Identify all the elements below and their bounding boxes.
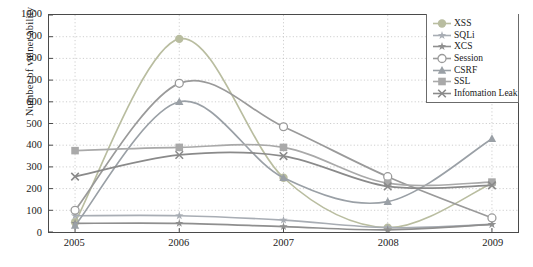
data-point-marker: [71, 206, 79, 214]
x-tick-label: 2007: [256, 238, 312, 249]
legend-item-label: Infomation Leak: [454, 88, 518, 99]
y-tick-label: 400: [2, 140, 42, 151]
legend-marker-star-icon: [432, 41, 452, 52]
y-tick-label: 800: [2, 53, 42, 64]
y-tick-label: 600: [2, 97, 42, 108]
legend-item-label: SQLi: [454, 30, 475, 41]
legend-item-label: XCS: [454, 41, 472, 52]
data-point-marker: [280, 123, 288, 131]
y-tick-label: 0: [2, 228, 42, 239]
data-point-marker: [438, 78, 446, 86]
x-tick-label: 2005: [46, 238, 102, 249]
data-point-marker: [175, 79, 183, 87]
y-tick-label: 200: [2, 184, 42, 195]
y-tick-label: 100: [2, 206, 42, 217]
legend-item-ssl[interactable]: SSL: [427, 76, 518, 88]
legend-item-label: Session: [454, 53, 483, 64]
data-point-marker: [438, 55, 446, 63]
x-tick-label: 2006: [151, 238, 207, 249]
legend-item-xss[interactable]: XSS: [427, 18, 518, 30]
legend-item-infomation-leak[interactable]: Infomation Leak: [427, 88, 518, 100]
legend-item-xcs[interactable]: XCS: [427, 41, 518, 53]
y-tick-label: 1000: [2, 9, 42, 20]
legend-item-label: SSL: [454, 76, 470, 87]
legend-marker-square-icon: [432, 76, 452, 87]
x-tick-label: 2009: [465, 238, 521, 249]
data-point-marker: [488, 134, 496, 142]
legend-marker-x-cross-icon: [432, 88, 452, 99]
data-point-marker: [71, 147, 79, 155]
x-tick-label: 2008: [360, 238, 416, 249]
data-point-marker: [280, 144, 288, 152]
legend-item-sqli[interactable]: SQLi: [427, 30, 518, 42]
legend-item-session[interactable]: Session: [427, 53, 518, 65]
chart-legend: XSSSQLiXCSSessionCSRFSSLInfomation Leak: [426, 14, 519, 103]
legend-marker-filled-circle-icon: [432, 18, 452, 29]
legend-marker-open-circle-icon: [432, 53, 452, 64]
y-axis-tick-labels: 01002003004005006007008009001000: [0, 0, 48, 267]
y-tick-label: 300: [2, 162, 42, 173]
data-point-marker: [175, 35, 183, 43]
chart-root: Number of vulner ability 010020030040050…: [0, 0, 533, 267]
legend-item-label: CSRF: [454, 65, 477, 76]
legend-marker-star-icon: [432, 30, 452, 41]
series-line: [75, 101, 492, 225]
data-point-marker: [175, 144, 183, 152]
legend-item-csrf[interactable]: CSRF: [427, 64, 518, 76]
y-tick-label: 900: [2, 31, 42, 42]
legend-marker-triangle-icon: [432, 65, 452, 76]
data-point-marker: [438, 20, 446, 28]
data-point-marker: [488, 214, 496, 222]
y-tick-label: 700: [2, 75, 42, 86]
y-tick-label: 500: [2, 119, 42, 130]
legend-item-label: XSS: [454, 18, 471, 29]
series-infomation-leak: [71, 151, 495, 190]
